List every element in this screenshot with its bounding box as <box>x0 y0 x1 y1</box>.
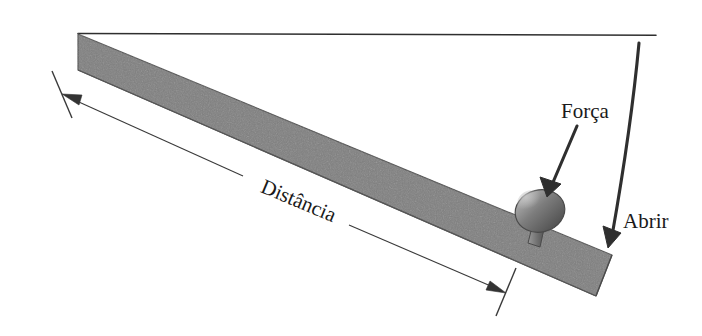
distance-label: Distância <box>258 174 341 227</box>
door-frame-line-icon <box>78 34 656 36</box>
force-label: Força <box>561 99 609 123</box>
diagram-canvas: Distância Força Abrir <box>0 0 702 336</box>
force-arrow-icon <box>540 126 577 197</box>
door-torque-diagram: Distância Força Abrir <box>0 0 702 336</box>
door-panel-icon <box>78 34 612 296</box>
open-label: Abrir <box>623 209 669 233</box>
